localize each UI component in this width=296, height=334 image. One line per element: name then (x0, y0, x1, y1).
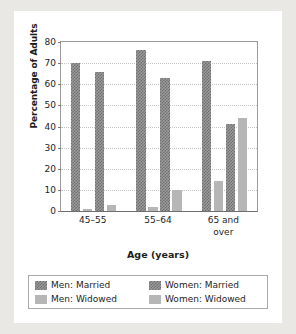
y-axis-title: Percentage of Adults (29, 6, 39, 146)
y-tick-mark (58, 84, 61, 85)
y-tick-mark (58, 190, 61, 191)
bar-men-widowed-1 (148, 207, 158, 211)
y-tick-label: 20 (45, 164, 56, 174)
x-axis-title: Age (years) (60, 249, 256, 260)
bar-women-widowed-0 (107, 205, 117, 211)
legend-item-women-married: Women: Married (149, 280, 263, 290)
y-tick-label: 80 (45, 37, 56, 47)
legend-swatch-icon (35, 295, 47, 304)
legend-item-men-married: Men: Married (35, 280, 149, 290)
y-tick-label: 60 (45, 79, 56, 89)
legend-label: Men: Widowed (51, 294, 117, 304)
gridline (61, 63, 257, 64)
x-tick-label-line: 55–64 (125, 214, 190, 226)
legend-swatch-icon (149, 281, 161, 290)
bar-men-married-2 (202, 61, 212, 211)
y-tick-label: 30 (45, 143, 56, 153)
y-tick-mark (58, 63, 61, 64)
bar-men-widowed-0 (83, 209, 93, 211)
legend-item-women-widowed: Women: Widowed (149, 294, 263, 304)
x-tick-label-2: 65 andover (191, 214, 256, 238)
x-tick-label-line: over (191, 226, 256, 238)
legend-label: Men: Married (51, 280, 110, 290)
bar-women-widowed-2 (238, 118, 248, 211)
screenshot-root: Percentage of Adults 01020304050607080 4… (0, 0, 296, 334)
bar-men-married-0 (71, 63, 81, 211)
legend-label: Women: Married (165, 280, 239, 290)
legend-label: Women: Widowed (165, 294, 246, 304)
y-tick-label: 10 (45, 185, 56, 195)
y-tick-label: 50 (45, 100, 56, 110)
bar-women-married-2 (226, 124, 236, 211)
chart-legend: Men: MarriedWomen: MarriedMen: WidowedWo… (28, 275, 268, 309)
chart-card: Percentage of Adults 01020304050607080 4… (14, 11, 282, 323)
y-tick-mark (58, 42, 61, 43)
y-tick-mark (58, 148, 61, 149)
y-tick-label: 40 (45, 122, 56, 132)
y-tick-mark (58, 169, 61, 170)
legend-swatch-icon (149, 295, 161, 304)
y-tick-label: 70 (45, 58, 56, 68)
y-tick-mark (58, 105, 61, 106)
x-tick-label-1: 55–64 (125, 214, 190, 226)
gridline (61, 84, 257, 85)
legend-swatch-icon (35, 281, 47, 290)
bar-chart-figure: Percentage of Adults 01020304050607080 4… (14, 11, 282, 323)
legend-item-men-widowed: Men: Widowed (35, 294, 149, 304)
bar-women-married-0 (95, 72, 105, 211)
x-tick-label-line: 45–55 (60, 214, 125, 226)
x-tick-label-0: 45–55 (60, 214, 125, 226)
y-tick-mark (58, 211, 61, 212)
plot-area: 01020304050607080 (60, 41, 258, 212)
x-tick-label-line: 65 and (191, 214, 256, 226)
y-tick-mark (58, 127, 61, 128)
bar-women-widowed-1 (172, 190, 182, 211)
bar-men-widowed-2 (214, 181, 224, 211)
y-tick-label: 0 (50, 206, 56, 216)
gridline (61, 105, 257, 106)
bar-men-married-1 (136, 50, 146, 211)
bar-women-married-1 (160, 78, 170, 211)
